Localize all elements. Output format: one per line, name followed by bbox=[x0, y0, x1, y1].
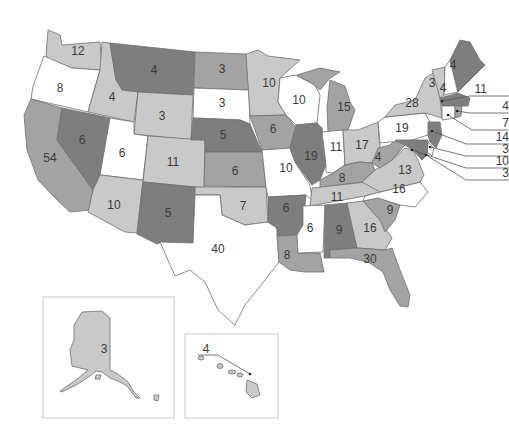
label-sd: 3 bbox=[219, 96, 226, 110]
label-wv: 4 bbox=[375, 150, 382, 164]
label-mn: 10 bbox=[262, 76, 276, 90]
alaska-island-2 bbox=[154, 395, 159, 401]
label-al: 9 bbox=[336, 223, 343, 237]
label-ga: 16 bbox=[363, 221, 377, 235]
label-oh: 17 bbox=[355, 138, 369, 152]
callout-ct: 7 bbox=[502, 116, 509, 130]
label-wi: 10 bbox=[292, 93, 306, 107]
label-id: 4 bbox=[109, 90, 116, 104]
label-ny: 28 bbox=[405, 96, 419, 110]
label-or: 8 bbox=[57, 81, 64, 95]
label-az: 10 bbox=[107, 198, 121, 212]
label-ia: 6 bbox=[270, 122, 277, 136]
hawaii-inset-frame bbox=[185, 334, 278, 418]
label-ak: 3 bbox=[101, 342, 108, 356]
label-fl: 30 bbox=[363, 252, 377, 266]
label-la: 8 bbox=[284, 248, 291, 262]
label-pa: 19 bbox=[395, 121, 409, 135]
callout-ma: 11 bbox=[475, 82, 488, 96]
us-electoral-map: 12 8 54 6 4 4 3 6 11 10 5 3 3 5 6 7 40 1… bbox=[0, 0, 509, 439]
label-nm: 5 bbox=[165, 206, 172, 220]
label-ca: 54 bbox=[43, 151, 57, 165]
label-va: 13 bbox=[398, 163, 412, 177]
label-nc: 16 bbox=[392, 182, 406, 196]
label-nd: 3 bbox=[219, 62, 226, 76]
label-ne: 5 bbox=[220, 128, 227, 142]
label-in: 11 bbox=[330, 140, 343, 154]
label-ks: 6 bbox=[232, 164, 239, 178]
label-mo: 10 bbox=[279, 161, 293, 175]
label-ut: 6 bbox=[119, 146, 126, 160]
label-co: 11 bbox=[167, 155, 180, 169]
label-mt: 4 bbox=[151, 63, 158, 77]
label-nv: 6 bbox=[79, 133, 86, 147]
callout-ri: 4 bbox=[502, 99, 509, 113]
label-ky: 8 bbox=[339, 171, 346, 185]
label-vt: 3 bbox=[429, 76, 436, 90]
label-ok: 7 bbox=[240, 199, 247, 213]
label-me: 4 bbox=[450, 58, 457, 72]
label-il: 19 bbox=[304, 149, 318, 163]
label-ms: 6 bbox=[307, 221, 314, 235]
label-hi: 4 bbox=[203, 342, 210, 356]
label-sc: 9 bbox=[387, 203, 394, 217]
alaska-island bbox=[95, 375, 101, 379]
callout-dc: 3 bbox=[502, 166, 509, 180]
label-tx: 40 bbox=[211, 242, 225, 256]
label-tn: 11 bbox=[331, 190, 344, 204]
label-nh: 4 bbox=[440, 81, 447, 95]
label-wa: 12 bbox=[71, 44, 85, 58]
label-mi: 15 bbox=[337, 100, 351, 114]
label-wy: 3 bbox=[159, 109, 166, 123]
label-ar: 6 bbox=[283, 201, 290, 215]
